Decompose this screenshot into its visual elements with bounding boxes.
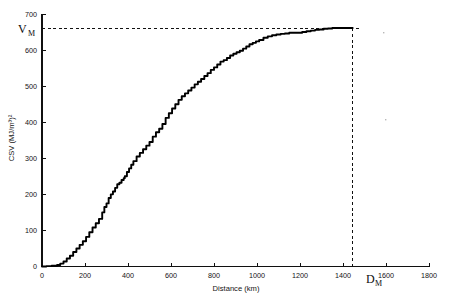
dm-annotation-label: D bbox=[366, 272, 375, 286]
y-tick-label: 0 bbox=[33, 262, 37, 271]
y-axis-title: CSV (MJ/m³)² bbox=[7, 114, 16, 161]
y-tick-label: 300 bbox=[25, 154, 37, 163]
y-tick-label: 500 bbox=[25, 82, 37, 91]
x-tick-label: 0 bbox=[40, 271, 44, 280]
y-tick-label: 600 bbox=[25, 46, 37, 55]
x-tick-label: 200 bbox=[79, 271, 91, 280]
scan-speck bbox=[383, 32, 384, 33]
y-tick-label: 400 bbox=[25, 118, 37, 127]
vm-annotation-label: V bbox=[18, 22, 27, 36]
y-tick-label: 700 bbox=[25, 10, 37, 19]
x-tick-label: 1400 bbox=[335, 271, 351, 280]
x-axis-title: Distance (km) bbox=[213, 284, 260, 293]
y-tick-label: 200 bbox=[25, 190, 37, 199]
scan-speck bbox=[385, 119, 386, 120]
x-tick-label: 1000 bbox=[249, 271, 265, 280]
x-tick-label: 1800 bbox=[421, 271, 437, 280]
chart-canvas: 020040060080010001200140016001800 010020… bbox=[0, 0, 449, 299]
axis-tick-marks bbox=[42, 14, 429, 267]
x-tick-label: 800 bbox=[208, 271, 220, 280]
x-tick-label: 400 bbox=[122, 271, 134, 280]
vm-annotation-subscript: M bbox=[28, 29, 35, 38]
chart-figure: 020040060080010001200140016001800 010020… bbox=[0, 0, 449, 299]
x-tick-label: 1200 bbox=[292, 271, 308, 280]
dm-annotation-subscript: M bbox=[375, 279, 382, 288]
x-tick-label: 600 bbox=[165, 271, 177, 280]
y-axis-tick-labels: 0100200300400500600700 bbox=[25, 10, 37, 272]
cumulative-csv-curve bbox=[42, 28, 353, 266]
y-tick-label: 100 bbox=[25, 226, 37, 235]
